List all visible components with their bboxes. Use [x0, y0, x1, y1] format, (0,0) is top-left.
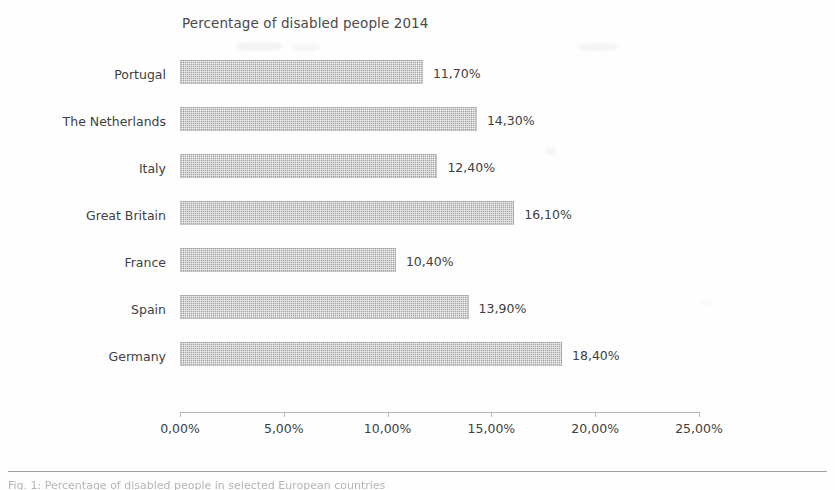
x-axis-tick — [284, 412, 285, 417]
category-label: Germany — [0, 349, 166, 364]
category-label: France — [0, 255, 166, 270]
bar — [180, 295, 469, 319]
bar-row: The Netherlands14,30% — [0, 102, 835, 149]
bar-row: France10,40% — [0, 243, 835, 290]
x-axis-tick — [388, 412, 389, 417]
bar-value-label: 14,30% — [487, 113, 535, 128]
x-axis-tick-label: 25,00% — [675, 421, 723, 436]
bar-row: Portugal11,70% — [0, 55, 835, 102]
x-axis-tick-label: 0,00% — [160, 421, 200, 436]
bar — [180, 60, 423, 84]
category-label: Great Britain — [0, 208, 166, 223]
x-axis-tick — [180, 412, 181, 417]
footer-divider — [8, 471, 827, 472]
x-axis-tick — [491, 412, 492, 417]
bar-row: Spain13,90% — [0, 290, 835, 337]
category-label: The Netherlands — [0, 114, 166, 129]
bar — [180, 248, 396, 272]
x-axis-tick-label: 20,00% — [571, 421, 619, 436]
category-label: Portugal — [0, 67, 166, 82]
bar-value-label: 13,90% — [479, 301, 527, 316]
category-label: Italy — [0, 161, 166, 176]
bar-row: Germany18,40% — [0, 337, 835, 384]
figure-caption: Fig. 1: Percentage of disabled people in… — [8, 479, 608, 490]
category-label: Spain — [0, 302, 166, 317]
x-axis-tick — [595, 412, 596, 417]
bar — [180, 107, 477, 131]
bar — [180, 201, 514, 225]
bar-chart-plot: Portugal11,70%The Netherlands14,30%Italy… — [0, 0, 835, 430]
bar — [180, 342, 562, 366]
x-axis-tick — [699, 412, 700, 417]
x-axis-tick-label: 5,00% — [264, 421, 304, 436]
x-axis-tick-label: 15,00% — [468, 421, 516, 436]
bar-value-label: 10,40% — [406, 254, 454, 269]
x-axis-tick-label: 10,00% — [364, 421, 412, 436]
bar-value-label: 18,40% — [572, 348, 620, 363]
figure-container: Percentage of disabled people 2014 Portu… — [0, 0, 835, 490]
bar-value-label: 11,70% — [433, 66, 481, 81]
bar — [180, 154, 437, 178]
x-axis-line — [180, 412, 699, 413]
bar-value-label: 12,40% — [447, 160, 495, 175]
bar-row: Great Britain16,10% — [0, 196, 835, 243]
bar-value-label: 16,10% — [524, 207, 572, 222]
bar-row: Italy12,40% — [0, 149, 835, 196]
